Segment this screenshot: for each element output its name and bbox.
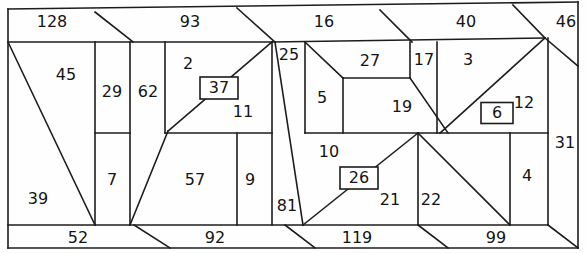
region-label-3: 3 xyxy=(463,50,473,69)
region-label-45: 45 xyxy=(56,65,76,84)
region-label-62: 62 xyxy=(138,82,158,101)
region-label-16: 16 xyxy=(314,12,334,31)
dissection-edge xyxy=(130,131,168,225)
dissection-edge xyxy=(410,78,448,133)
region-label-11: 11 xyxy=(233,102,253,121)
dissection-edge xyxy=(548,225,578,248)
dissection-edge xyxy=(545,38,578,66)
region-label-37: 37 xyxy=(209,78,229,97)
region-label-46: 46 xyxy=(556,12,576,31)
region-label-5: 5 xyxy=(317,88,327,107)
region-label-2: 2 xyxy=(183,54,193,73)
region-label-21: 21 xyxy=(380,190,400,209)
region-label-17: 17 xyxy=(414,50,434,69)
region-label-57: 57 xyxy=(185,170,205,189)
region-label-22: 22 xyxy=(421,190,441,209)
region-label-52: 52 xyxy=(68,228,88,247)
region-label-99: 99 xyxy=(486,228,506,247)
dissection-figure: 37626 1289316404645392976221157925815271… xyxy=(0,0,586,253)
figure-labels: 1289316404645392976221157925815271917312… xyxy=(28,12,576,247)
dissection-edge xyxy=(418,133,510,225)
region-label-29: 29 xyxy=(102,82,122,101)
region-label-40: 40 xyxy=(456,12,476,31)
region-label-26: 26 xyxy=(349,168,369,187)
dissection-edge xyxy=(285,225,315,248)
dissection-edge xyxy=(237,8,275,42)
dissection-edge xyxy=(380,10,412,42)
region-label-81: 81 xyxy=(277,196,297,215)
dissection-edge xyxy=(8,2,578,9)
region-label-119: 119 xyxy=(342,228,373,247)
diagram-canvas: 37626 1289316404645392976221157925815271… xyxy=(0,0,586,253)
region-label-9: 9 xyxy=(245,170,255,189)
region-label-93: 93 xyxy=(180,12,200,31)
region-label-92: 92 xyxy=(205,228,225,247)
dissection-edge xyxy=(513,5,545,38)
region-label-6: 6 xyxy=(492,103,502,122)
dissection-edge xyxy=(305,42,343,78)
dissection-edge xyxy=(8,42,95,225)
region-label-7: 7 xyxy=(107,170,117,189)
region-label-4: 4 xyxy=(522,166,532,185)
region-label-25: 25 xyxy=(279,45,299,64)
region-label-31: 31 xyxy=(555,133,575,152)
dissection-edge xyxy=(418,225,448,248)
region-label-27: 27 xyxy=(360,51,380,70)
region-label-19: 19 xyxy=(392,97,412,116)
region-label-10: 10 xyxy=(319,142,339,161)
region-label-12: 12 xyxy=(514,93,534,112)
region-label-39: 39 xyxy=(28,189,48,208)
dissection-edge xyxy=(134,225,170,248)
region-label-128: 128 xyxy=(37,12,68,31)
dissection-edge xyxy=(95,12,133,42)
